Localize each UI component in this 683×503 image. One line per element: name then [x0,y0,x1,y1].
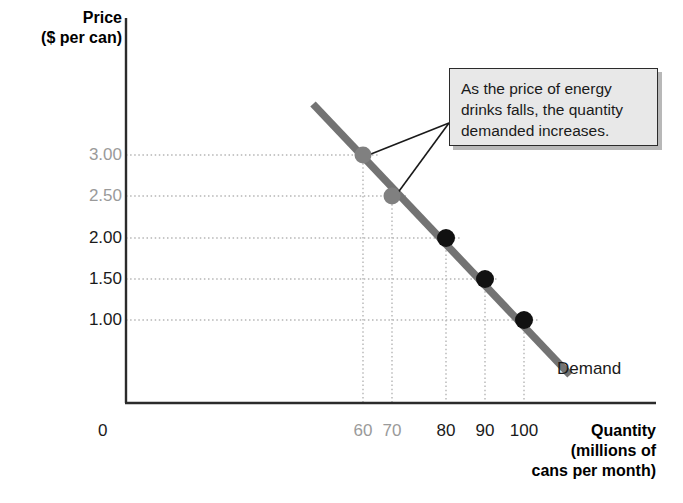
gridlines-horizontal [126,155,538,320]
data-point-90-150 [476,270,494,288]
x-axis-title: Quantity (millions of cans per month) [420,421,656,481]
y-tick-label-200: 2.00 [64,228,122,248]
y-tick-label-100: 1.00 [64,310,122,330]
y-tick-label-250: 2.50 [64,186,122,206]
x-tick-label-70: 70 [383,421,402,441]
data-point-100-100 [515,311,533,329]
demand-curve-label: Demand [557,359,621,379]
y-tick-label-150: 1.50 [64,269,122,289]
data-point-70-250 [384,188,401,205]
annotation-callout-text: As the price of energy drinks falls, the… [461,78,647,141]
y-tick-label-300: 3.00 [64,145,122,165]
origin-label: 0 [98,421,107,441]
x-tick-label-60: 60 [354,421,373,441]
data-point-60-300 [355,147,372,164]
leader-lines [366,123,449,198]
data-point-80-200 [437,229,455,247]
demand-curve-figure: Price ($ per can) 3.00 2.50 2.00 1.50 1.… [0,0,683,503]
annotation-callout-box: As the price of energy drinks falls, the… [449,68,658,146]
y-axis-title: Price ($ per can) [0,8,122,48]
